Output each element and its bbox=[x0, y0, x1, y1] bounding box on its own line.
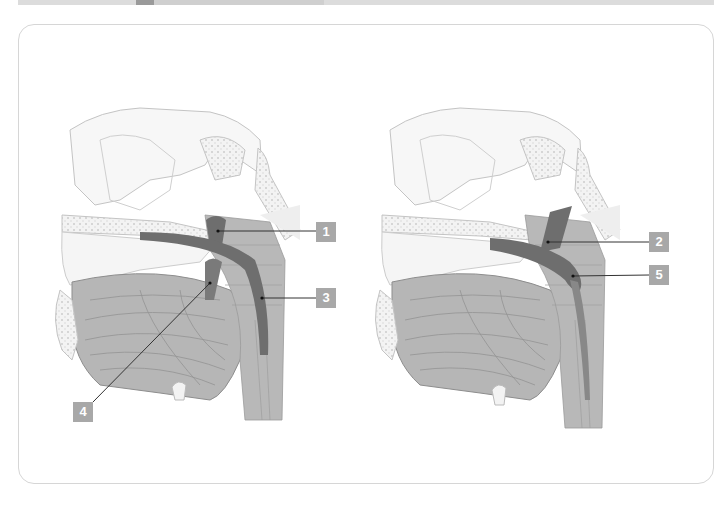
right-panel-illustration bbox=[375, 108, 649, 428]
callout-label-3: 3 bbox=[316, 288, 336, 308]
anatomy-figure bbox=[0, 0, 726, 526]
left-panel-illustration bbox=[55, 108, 316, 420]
callout-label-2: 2 bbox=[649, 232, 669, 252]
callout-label-4: 4 bbox=[73, 402, 93, 422]
callout-label-1: 1 bbox=[316, 222, 336, 242]
callout-label-5: 5 bbox=[649, 265, 669, 285]
